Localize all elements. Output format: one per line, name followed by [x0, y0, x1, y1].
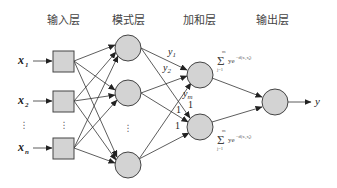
svg-text:j=1: j=1	[216, 67, 223, 72]
grnn-diagram: 输入层 模式层 加和层 输出层	[0, 0, 337, 188]
svg-text:Σ: Σ	[217, 132, 225, 147]
input-node-ellipsis: ⋮	[60, 120, 69, 130]
edge-label-one-b: 1	[176, 104, 181, 115]
input-arrows	[33, 61, 52, 148]
pattern-node-2	[115, 80, 141, 106]
layer-title-summation: 加和层	[183, 14, 216, 27]
input-label-x2: x2	[17, 93, 29, 109]
input-pattern-edges	[74, 45, 118, 163]
svg-text:−d(xᵢ,xⱼ): −d(xᵢ,xⱼ)	[236, 55, 252, 61]
formula-lower: m Σ j=1 ye −d(xᵢ,xⱼ)	[216, 128, 252, 151]
pattern-node-1	[115, 35, 141, 61]
output-label-y: y	[314, 95, 320, 107]
edge-label-one-a: 1	[188, 99, 193, 110]
svg-text:ye: ye	[228, 57, 235, 65]
summation-node-lower	[187, 114, 213, 140]
input-label-ellipsis: ⋮	[20, 120, 29, 130]
input-label-xn: xn	[17, 140, 29, 156]
svg-text:j=1: j=1	[216, 146, 223, 151]
svg-text:Σ: Σ	[217, 53, 225, 68]
input-label-x1: x1	[17, 53, 29, 69]
pattern-node-ellipsis: ⋮	[124, 123, 133, 133]
summation-node-upper	[187, 62, 213, 88]
pattern-node-m	[115, 152, 141, 178]
edge-label-y1: y1	[167, 46, 176, 59]
layer-title-output: 输出层	[256, 13, 289, 27]
svg-text:−d(xᵢ,xⱼ): −d(xᵢ,xⱼ)	[236, 134, 252, 140]
svg-text:ye: ye	[228, 136, 235, 144]
output-node	[262, 89, 288, 115]
formula-upper: m Σ j=1 ye −d(xᵢ,xⱼ)	[216, 49, 252, 72]
edge-label-y2: y2	[162, 62, 171, 75]
input-node-2	[53, 91, 74, 112]
summation-output-edges	[212, 78, 311, 122]
edge-label-one-c: 1	[175, 120, 180, 131]
layer-title-input: 输入层	[47, 13, 80, 27]
layer-title-pattern: 模式层	[112, 14, 145, 27]
input-node-n	[53, 138, 74, 159]
input-node-1	[53, 51, 74, 72]
